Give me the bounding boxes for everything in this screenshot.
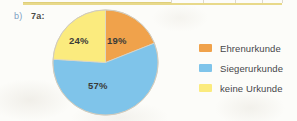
legend-color-swatch-blue [199, 64, 212, 72]
exercise-task-label: 7a: [31, 11, 45, 21]
chart-legend: Ehrenurkunde Siegerurkunde keine Urkunde [199, 38, 295, 98]
table-column-divider [235, 0, 236, 3]
legend-color-swatch-orange [199, 44, 212, 52]
pie-slice-label-ehrenurkunde: 19% [107, 35, 127, 46]
pie-chart-svg [52, 9, 159, 116]
scanned-page: b) 7a: 19% 57% 24% Ehrenurkunde Siegerur… [0, 0, 297, 121]
table-column-divider [282, 0, 283, 3]
exercise-part-label: b) [14, 11, 22, 21]
table-column-divider [262, 0, 263, 3]
pie-slice-label-keine-urkunde: 24% [69, 35, 89, 46]
table-border-line [23, 3, 282, 5]
table-column-divider [203, 0, 204, 3]
legend-color-swatch-yellow [199, 84, 212, 92]
pie-slice-label-siegerurkunde: 57% [88, 80, 108, 91]
cut-off-table-bottom-edge [0, 0, 297, 7]
legend-item-ehrenurkunde: Ehrenurkunde [199, 38, 295, 58]
table-column-divider [171, 0, 172, 3]
legend-label-keine-urkunde: keine Urkunde [220, 83, 283, 94]
pie-slice-group [53, 10, 158, 115]
legend-item-siegerurkunde: Siegerurkunde [199, 58, 295, 78]
legend-label-ehrenurkunde: Ehrenurkunde [220, 43, 281, 54]
legend-label-siegerurkunde: Siegerurkunde [220, 63, 283, 74]
legend-item-keine-urkunde: keine Urkunde [199, 78, 295, 98]
pie-chart: 19% 57% 24% [52, 9, 159, 116]
